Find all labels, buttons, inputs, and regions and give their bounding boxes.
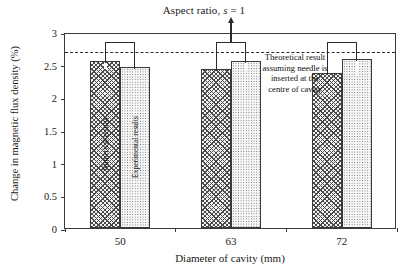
y-tick-mark <box>61 132 65 133</box>
plot-area: 00.511.522.53506372Numerical resultsExpe… <box>64 33 396 229</box>
y-tick-label: 0.5 <box>44 190 57 203</box>
theoretical-reference-line <box>65 52 395 53</box>
y-tick-label: 1.5 <box>44 125 57 138</box>
group-bracket-50 <box>105 42 135 69</box>
y-tick-mark <box>61 164 65 165</box>
y-tick-label: 3 <box>52 27 57 40</box>
aspect-ratio-callout-arrow-head <box>228 17 234 23</box>
annotation-line-4: centre of cavity <box>246 84 344 95</box>
bracket-leg-mask <box>356 61 358 75</box>
x-tick-mark <box>65 228 66 232</box>
chart-title-tail: = 1 <box>230 4 245 16</box>
x-tick-mark <box>397 228 398 232</box>
y-tick-mark <box>61 99 65 100</box>
plot-inner: 00.511.522.53506372Numerical resultsExpe… <box>65 34 395 228</box>
bar-series-label: Numerical results <box>101 118 110 171</box>
bar-experimental-50: Experimental results <box>120 67 150 228</box>
y-tick-label: 2.5 <box>44 60 57 73</box>
y-axis-label: Change in magnetic flux density (%) <box>9 24 20 224</box>
x-tick-mark <box>175 228 176 232</box>
x-tick-mark <box>286 228 287 232</box>
y-tick-label: 2 <box>52 92 57 105</box>
annotation-line-3: inserted at the <box>246 73 344 84</box>
chart-title-lead: Aspect ratio, <box>163 4 221 16</box>
y-tick-label: 1 <box>52 158 57 171</box>
bracket-leg-mask <box>104 63 106 69</box>
aspect-ratio-callout-arrow-stem <box>230 22 231 42</box>
annotation-line-1: Theoretical result <box>246 52 344 63</box>
x-axis-label: Diameter of cavity (mm) <box>64 252 396 264</box>
figure-bar-chart: Aspect ratio, s = 1 Change in magnetic f… <box>0 0 408 276</box>
bar-experimental-72: Experimental results <box>342 59 372 228</box>
x-tick-label: 72 <box>312 235 372 247</box>
bar-numerical-50: Numerical results <box>90 61 120 228</box>
x-tick-label: 63 <box>201 235 261 247</box>
chart-title-italic-variable: s <box>223 4 227 16</box>
x-tick-label: 50 <box>90 235 150 247</box>
y-tick-mark <box>61 66 65 67</box>
y-tick-label: 0 <box>52 223 57 236</box>
y-tick-mark <box>61 197 65 198</box>
bar-series-label: Experimental results <box>131 116 140 178</box>
theoretical-result-annotation: Theoretical resultassuming needle isinse… <box>246 52 344 94</box>
y-tick-mark <box>61 34 65 35</box>
annotation-line-2: assuming needle is <box>246 63 344 74</box>
bar-numerical-63: Numerical results <box>201 69 231 228</box>
group-bracket-63 <box>216 42 246 71</box>
chart-title: Aspect ratio, s = 1 <box>0 4 408 16</box>
bar-numerical-72: Numerical results <box>312 73 342 228</box>
